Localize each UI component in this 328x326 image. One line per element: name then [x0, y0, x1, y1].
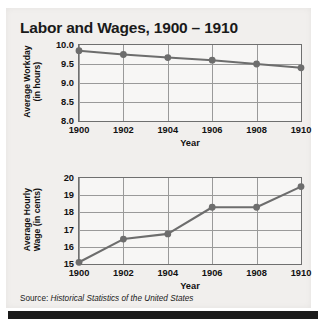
- chart2-x-axis-title: Year: [180, 281, 200, 291]
- series-data-point: [164, 54, 171, 61]
- source-note: Source: Historical Statistics of the Uni…: [20, 294, 193, 303]
- series-data-point: [120, 236, 127, 243]
- chart-average-hourly-wage: Average Hourly Wage (in cents) 151617181…: [6, 171, 311, 291]
- chart-series: [79, 45, 301, 121]
- y-tick-label: 9.0: [61, 78, 74, 88]
- series-data-point: [209, 204, 216, 211]
- source-prefix: Source:: [20, 294, 51, 303]
- figure-root: Labor and Wages, 1900 – 1910 Average Wor…: [0, 0, 328, 326]
- x-tick-label: 1902: [113, 125, 134, 135]
- series-data-point: [209, 57, 216, 64]
- y-tick-label: 10.0: [56, 40, 74, 50]
- series-data-point: [298, 183, 305, 190]
- y-tick-label: 19: [64, 190, 74, 200]
- y-tick-label: 16: [64, 242, 74, 252]
- series-data-point: [76, 259, 83, 266]
- y-tick-label: 9.5: [61, 59, 74, 69]
- x-tick-label: 1902: [113, 268, 134, 278]
- x-tick-label: 1906: [202, 268, 223, 278]
- series-line: [79, 51, 301, 68]
- x-tick-label: 1910: [291, 125, 312, 135]
- chart1-plot-area: [78, 44, 302, 122]
- series-data-point: [298, 64, 305, 71]
- series-data-point: [76, 47, 83, 54]
- x-tick-label: 1900: [69, 268, 90, 278]
- series-data-point: [253, 204, 260, 211]
- x-tick-label: 1908: [246, 125, 267, 135]
- source-title: Historical Statistics of the United Stat…: [51, 294, 194, 303]
- chart1-x-axis-title: Year: [180, 138, 200, 148]
- figure-panel: Labor and Wages, 1900 – 1910 Average Wor…: [6, 8, 311, 308]
- x-tick-label: 1904: [157, 125, 178, 135]
- y-tick-label: 17: [64, 225, 74, 235]
- x-tick-label: 1908: [246, 268, 267, 278]
- chart-average-workday: Average Workday (in hours) 8.08.59.09.51…: [6, 38, 311, 158]
- y-tick-label: 20: [64, 173, 74, 183]
- chart1-y-axis-label: Average Workday (in hours): [23, 43, 42, 121]
- figure-title: Labor and Wages, 1900 – 1910: [20, 19, 238, 37]
- x-tick-label: 1906: [202, 125, 223, 135]
- series-data-point: [120, 51, 127, 58]
- chart-series: [79, 178, 301, 264]
- x-tick-label: 1910: [291, 268, 312, 278]
- series-data-point: [253, 61, 260, 68]
- series-data-point: [164, 231, 171, 238]
- y-tick-label: 8.5: [61, 97, 74, 107]
- series-line: [79, 187, 301, 263]
- chart2-plot-area: [78, 177, 302, 265]
- x-tick-label: 1900: [69, 125, 90, 135]
- x-tick-label: 1904: [157, 268, 178, 278]
- bottom-bar: [8, 311, 318, 319]
- chart2-y-axis-label: Average Hourly Wage (in cents): [23, 176, 42, 264]
- y-tick-label: 18: [64, 207, 74, 217]
